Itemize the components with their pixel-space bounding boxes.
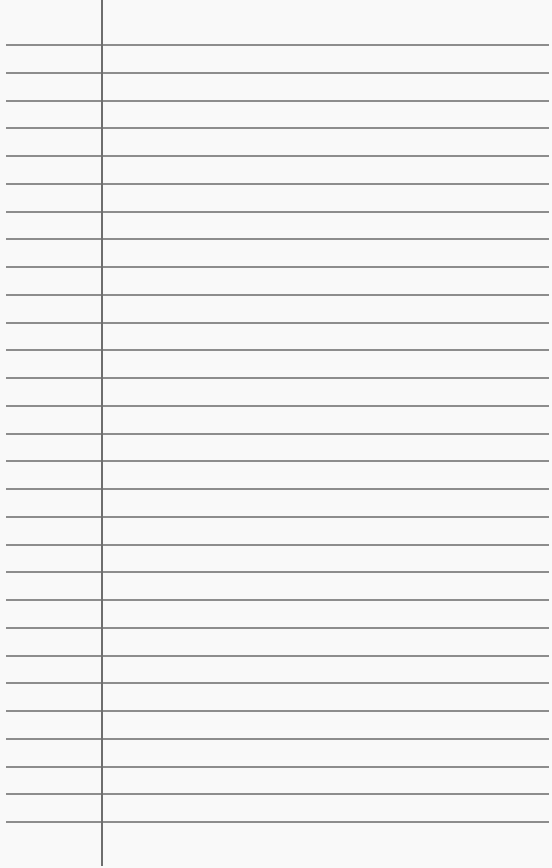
ruled-line <box>6 294 549 296</box>
ruled-line <box>6 766 549 768</box>
ruled-line <box>6 72 549 74</box>
ruled-line <box>6 599 549 601</box>
ruled-line <box>6 127 549 129</box>
ruled-line <box>6 377 549 379</box>
ruled-line <box>6 44 549 46</box>
ruled-line <box>6 821 549 823</box>
ruled-line <box>6 211 549 213</box>
ruled-line <box>6 627 549 629</box>
ruled-line <box>6 183 549 185</box>
ruled-paper <box>0 0 552 868</box>
ruled-line <box>6 488 549 490</box>
ruled-line <box>6 460 549 462</box>
ruled-line <box>6 349 549 351</box>
ruled-line <box>6 100 549 102</box>
ruled-line <box>6 655 549 657</box>
ruled-line <box>6 738 549 740</box>
ruled-line <box>6 405 549 407</box>
ruled-line <box>6 155 549 157</box>
ruled-line <box>6 238 549 240</box>
ruled-line <box>6 793 549 795</box>
ruled-line <box>6 516 549 518</box>
margin-line <box>101 0 103 866</box>
ruled-line <box>6 544 549 546</box>
ruled-line <box>6 682 549 684</box>
ruled-line <box>6 710 549 712</box>
ruled-line <box>6 266 549 268</box>
ruled-line <box>6 571 549 573</box>
ruled-line <box>6 433 549 435</box>
ruled-line <box>6 322 549 324</box>
